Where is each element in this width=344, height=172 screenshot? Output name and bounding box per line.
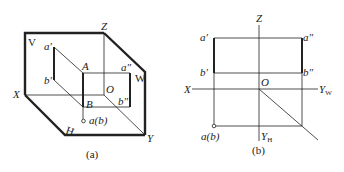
proj-b-prime-B bbox=[54, 80, 83, 107]
label-ab: a(b) bbox=[201, 130, 220, 143]
label-a-dprime: a″ bbox=[303, 31, 314, 43]
diagonal-45-line bbox=[259, 89, 318, 140]
label-z: Z bbox=[256, 12, 263, 24]
label-z: Z bbox=[101, 20, 108, 32]
label-yw-sub: W bbox=[325, 89, 332, 97]
label-v-plane: V bbox=[28, 36, 36, 48]
label-yh: YH bbox=[261, 130, 272, 144]
caption-a: (a) bbox=[86, 148, 99, 161]
projection-diagram: V H W Z X O Y a′ b′ A B a″ b″ a(b) (a) Z… bbox=[0, 0, 344, 172]
label-x: X bbox=[12, 88, 21, 100]
label-w-plane: W bbox=[135, 72, 146, 84]
figure-a bbox=[25, 33, 145, 135]
v-plane-edge bbox=[25, 33, 104, 95]
label-y: Y bbox=[147, 132, 155, 144]
point-ab-marker bbox=[82, 119, 86, 123]
point-ab-marker bbox=[212, 124, 216, 128]
label-o: O bbox=[261, 76, 269, 88]
label-b-dprime: b″ bbox=[303, 66, 314, 78]
label-a-prime: a′ bbox=[44, 40, 53, 52]
label-o: O bbox=[106, 83, 114, 95]
label-ab: a(b) bbox=[89, 114, 108, 127]
label-yh-sub: H bbox=[267, 136, 272, 144]
figure-b bbox=[192, 25, 318, 141]
label-B: B bbox=[86, 98, 93, 110]
label-A: A bbox=[81, 60, 89, 72]
caption-b: (b) bbox=[252, 144, 265, 157]
label-yw: YW bbox=[319, 83, 332, 97]
label-x: X bbox=[183, 83, 192, 95]
label-b-dprime: b″ bbox=[118, 95, 129, 107]
label-a-prime: a′ bbox=[200, 31, 209, 43]
proj-a-prime-A bbox=[54, 47, 83, 73]
label-b-prime: b′ bbox=[200, 66, 209, 78]
label-b-prime: b′ bbox=[44, 74, 53, 86]
label-a-dprime: a″ bbox=[121, 61, 132, 73]
